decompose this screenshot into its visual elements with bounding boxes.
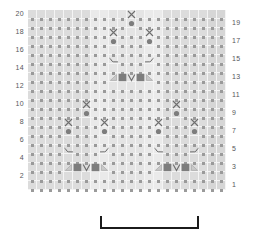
chart-cell-knit xyxy=(118,145,127,154)
chart-cell-knit xyxy=(64,154,73,163)
chart-cell-knit xyxy=(37,127,46,136)
chart-cell-bobble xyxy=(82,109,91,118)
chart-cell-knit xyxy=(172,55,181,64)
chart-cell-knit xyxy=(190,28,199,37)
chart-cell-knit xyxy=(46,64,55,73)
chart-cell-knit xyxy=(37,73,46,82)
chart-cell-knit xyxy=(118,28,127,37)
chart-cell-knit xyxy=(208,82,217,91)
chart-cell-knit xyxy=(190,19,199,28)
chart-cell-knit xyxy=(64,19,73,28)
chart-cell-bobble xyxy=(172,109,181,118)
chart-cell-tri_right xyxy=(145,73,154,82)
chart-cell-knit xyxy=(37,154,46,163)
chart-cell-knit xyxy=(190,136,199,145)
chart-cell-knit xyxy=(91,109,100,118)
chart-cell-knit xyxy=(82,181,91,190)
chart-cell-knit xyxy=(91,145,100,154)
chart-cell-knit xyxy=(217,37,226,46)
chart-cell-bobble xyxy=(145,37,154,46)
chart-cell-knit xyxy=(181,109,190,118)
chart-cell-block xyxy=(91,163,100,172)
chart-cell-knit xyxy=(208,136,217,145)
chart-cell-knit xyxy=(163,154,172,163)
chart-cell-knit xyxy=(208,145,217,154)
chart-cell-knit xyxy=(64,73,73,82)
chart-cell-knit xyxy=(118,154,127,163)
chart-cell-knit xyxy=(136,28,145,37)
chart-cell-knit xyxy=(118,163,127,172)
chart-cell-knit xyxy=(163,46,172,55)
chart-cell-knit xyxy=(136,154,145,163)
chart-cell-knit xyxy=(127,136,136,145)
chart-cell-knit xyxy=(109,145,118,154)
chart-cell-knit xyxy=(190,100,199,109)
chart-cell-knit xyxy=(199,73,208,82)
chart-cell-knit xyxy=(217,82,226,91)
chart-cell-knit xyxy=(208,10,217,19)
chart-cell-knit xyxy=(181,55,190,64)
chart-cell-knit xyxy=(46,46,55,55)
chart-cell-knit xyxy=(28,100,37,109)
chart-cell-knit xyxy=(181,100,190,109)
chart-cell-knit xyxy=(136,145,145,154)
chart-cell-knit xyxy=(55,100,64,109)
chart-cell-knit xyxy=(154,46,163,55)
chart-cell-knit xyxy=(46,37,55,46)
chart-cell-knit xyxy=(55,154,64,163)
chart-cell-knit xyxy=(109,181,118,190)
chart-grid xyxy=(28,10,226,190)
chart-cell-knit xyxy=(190,64,199,73)
chart-cell-knit xyxy=(217,172,226,181)
chart-cell-knit xyxy=(28,145,37,154)
chart-cell-knit xyxy=(199,10,208,19)
chart-cell-knit xyxy=(127,100,136,109)
chart-cell-knit xyxy=(73,100,82,109)
chart-cell-knit xyxy=(154,28,163,37)
chart-cell-knit xyxy=(154,19,163,28)
chart-cell-knit xyxy=(163,172,172,181)
chart-cell-knit xyxy=(199,100,208,109)
chart-cell-knit xyxy=(208,46,217,55)
chart-cell-knit xyxy=(181,154,190,163)
chart-cell-knit xyxy=(172,118,181,127)
chart-cell-knit xyxy=(208,37,217,46)
chart-cell-vee xyxy=(82,163,91,172)
chart-cell-knit xyxy=(46,181,55,190)
chart-cell-knit xyxy=(82,154,91,163)
chart-cell-knit xyxy=(55,91,64,100)
chart-cell-knit xyxy=(64,100,73,109)
chart-cell-knit xyxy=(109,91,118,100)
chart-cell-knit xyxy=(100,136,109,145)
chart-cell-knit xyxy=(55,127,64,136)
chart-cell-curve_left xyxy=(154,145,163,154)
chart-cell-knit xyxy=(28,163,37,172)
chart-cell-knit xyxy=(100,28,109,37)
chart-cell-knit xyxy=(46,100,55,109)
chart-cell-knit xyxy=(127,64,136,73)
chart-cell-knit xyxy=(28,73,37,82)
chart-cell-knit xyxy=(64,28,73,37)
row-number-right: 15 xyxy=(232,54,240,63)
chart-cell-knit xyxy=(55,37,64,46)
chart-cell-knit xyxy=(82,73,91,82)
chart-cell-knit xyxy=(28,28,37,37)
chart-cell-knit xyxy=(145,82,154,91)
chart-cell-cross xyxy=(64,118,73,127)
chart-cell-knit xyxy=(73,181,82,190)
chart-cell-knit xyxy=(100,91,109,100)
chart-cell-knit xyxy=(100,73,109,82)
chart-cell-knit xyxy=(100,154,109,163)
chart-cell-knit xyxy=(46,145,55,154)
chart-cell-knit xyxy=(136,37,145,46)
chart-cell-curve_right xyxy=(100,145,109,154)
chart-cell-knit xyxy=(55,163,64,172)
chart-cell-knit xyxy=(46,82,55,91)
chart-cell-knit xyxy=(82,10,91,19)
chart-cell-knit xyxy=(190,109,199,118)
chart-cell-knit xyxy=(91,172,100,181)
chart-cell-knit xyxy=(199,172,208,181)
chart-cell-block xyxy=(163,163,172,172)
chart-cell-knit xyxy=(208,64,217,73)
chart-cell-knit xyxy=(136,163,145,172)
